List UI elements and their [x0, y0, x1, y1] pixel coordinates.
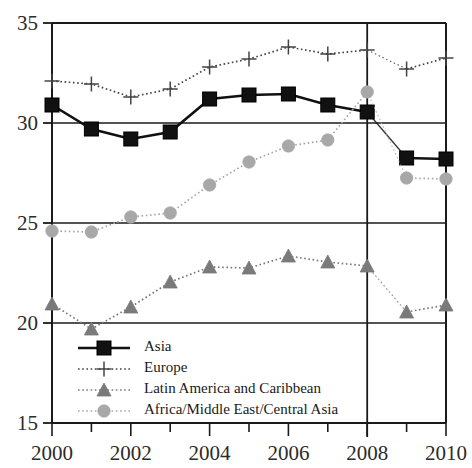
- data-point-2007: [321, 98, 335, 112]
- x-tick-label-2004: 2004: [189, 441, 232, 465]
- data-point-2001: [85, 226, 97, 238]
- data-point-2004: [203, 92, 217, 106]
- data-point-2010: [439, 152, 453, 166]
- legend-label: Africa/Middle East/Central Asia: [144, 401, 338, 417]
- x-tick-label-2000: 2000: [31, 441, 73, 465]
- data-point-2003: [164, 207, 176, 219]
- data-point-2007: [322, 134, 334, 146]
- data-point-2008: [360, 105, 374, 119]
- legend-label: Latin America and Caribbean: [144, 380, 322, 396]
- line-chart-canvas: 1520253035 200020022004200620082010 Asia…: [0, 0, 472, 468]
- x-axis-ticks: [52, 423, 446, 436]
- data-point-2009: [400, 172, 412, 184]
- x-axis-tick-labels: 200020022004200620082010: [31, 441, 467, 465]
- x-tick-label-2010: 2010: [425, 441, 467, 465]
- data-point-2004: [203, 179, 215, 191]
- data-point-2006: [282, 140, 294, 152]
- y-axis-ticks: [43, 23, 52, 423]
- y-tick-label-30: 30: [17, 111, 38, 135]
- x-tick-label-2008: 2008: [346, 441, 388, 465]
- x-tick-label-2002: 2002: [110, 441, 152, 465]
- data-point-2002: [124, 132, 138, 146]
- data-point-2000: [45, 98, 59, 112]
- data-point-2002: [125, 211, 137, 223]
- legend-swatch-marker: [98, 405, 110, 417]
- data-point-2010: [440, 173, 452, 185]
- y-tick-label-35: 35: [17, 11, 38, 35]
- data-point-2005: [243, 156, 255, 168]
- data-point-2003: [163, 125, 177, 139]
- legend-label: Europe: [144, 359, 188, 375]
- data-point-2001: [84, 122, 98, 136]
- data-point-2009: [400, 151, 414, 165]
- y-tick-label-15: 15: [17, 411, 38, 435]
- data-point-2005: [242, 88, 256, 102]
- chart-figure: 1520253035 200020022004200620082010 Asia…: [0, 0, 472, 468]
- y-tick-label-25: 25: [17, 211, 38, 235]
- y-axis-tick-labels: 1520253035: [17, 11, 38, 435]
- data-point-2000: [46, 225, 58, 237]
- legend-label: Asia: [144, 338, 172, 354]
- data-point-2006: [281, 87, 295, 101]
- y-tick-label-20: 20: [17, 311, 38, 335]
- x-tick-label-2006: 2006: [267, 441, 309, 465]
- legend-swatch-marker: [97, 341, 111, 355]
- data-point-2008: [361, 86, 373, 98]
